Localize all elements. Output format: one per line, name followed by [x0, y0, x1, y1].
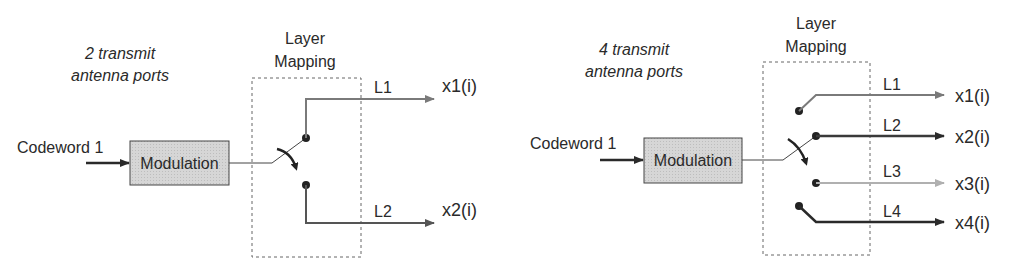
- switch-arm: [742, 136, 816, 160]
- layer-mapping-figure: 2 transmit antenna ports Layer Mapping C…: [0, 0, 1017, 272]
- layer-mapping-title-line1: Layer: [796, 15, 837, 32]
- layer-mapping-title-line2: Mapping: [274, 53, 335, 70]
- switch-arm: [229, 138, 306, 163]
- layer-mapping-title-line2: Mapping: [785, 38, 846, 55]
- layer-label-l4: L4: [883, 203, 901, 220]
- modulation-label: Modulation: [654, 152, 732, 169]
- caption-line2: antenna ports: [71, 67, 169, 84]
- output-x1: x1(i): [955, 86, 990, 106]
- layer-line-l4: [799, 206, 944, 222]
- layer-label-l3: L3: [883, 163, 901, 180]
- layer-label-l1: L1: [374, 79, 392, 96]
- modulation-label: Modulation: [140, 155, 218, 172]
- caption-line1: 2 transmit: [84, 45, 156, 62]
- layer-label-l1: L1: [883, 76, 901, 93]
- output-x2: x2(i): [442, 200, 477, 220]
- caption-line1: 4 transmit: [599, 41, 670, 58]
- output-x3: x3(i): [955, 174, 990, 194]
- input-label: Codeword 1: [530, 135, 616, 152]
- layer-line-l1: [306, 99, 434, 138]
- layer-line-l2: [306, 185, 434, 223]
- switch-rotation-arrow: [788, 139, 806, 163]
- layer-label-l2: L2: [374, 203, 392, 220]
- layer-mapping-title-line1: Layer: [285, 30, 326, 47]
- layer-line-l1: [799, 95, 944, 111]
- caption-line2: antenna ports: [585, 63, 683, 80]
- input-label: Codeword 1: [17, 139, 103, 156]
- layer-label-l2: L2: [883, 117, 901, 134]
- output-x1: x1(i): [442, 76, 477, 96]
- diagram-4-ports: 4 transmit antenna ports Layer Mapping C…: [530, 15, 990, 255]
- output-x2: x2(i): [955, 127, 990, 147]
- layer-mapping-box: [763, 62, 870, 255]
- output-x4: x4(i): [955, 213, 990, 233]
- diagram-2-ports: 2 transmit antenna ports Layer Mapping C…: [17, 30, 477, 257]
- switch-rotation-arrow: [277, 149, 296, 168]
